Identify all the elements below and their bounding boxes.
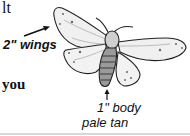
upper-right-wing <box>118 38 186 61</box>
antenna-right <box>114 27 133 32</box>
wings-arrow-icon <box>24 26 50 36</box>
body-color-label: pale tan <box>82 116 128 130</box>
body-size-label: 1" body <box>97 101 141 115</box>
wings-size-label: 2" wings <box>3 38 57 52</box>
bottom-divider <box>0 133 190 135</box>
thorax <box>105 31 119 49</box>
body-arrow-icon <box>105 89 110 100</box>
